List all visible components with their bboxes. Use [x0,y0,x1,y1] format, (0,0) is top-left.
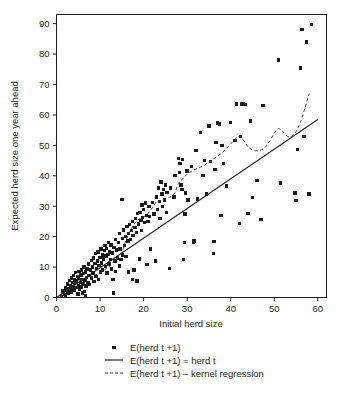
data-point [142,208,145,211]
legend-label-identity: E(herd t +1) = herd t [130,355,216,366]
data-point-group [60,23,313,299]
data-point [219,214,222,217]
data-point [96,259,99,262]
data-point [199,131,202,134]
data-point [109,243,112,246]
legend-label-points: E(herd t +1) [130,342,180,353]
data-point [162,188,165,191]
data-point [279,181,282,184]
legend-label-kernel: E(herd t +1) – kernel regression [130,368,264,379]
data-point [114,270,117,273]
data-point [229,121,232,124]
data-point [105,247,108,250]
data-point [135,279,138,282]
data-point [249,119,252,122]
data-point [213,168,216,171]
x-tick-label: 10 [95,303,106,314]
data-point [203,159,206,162]
data-point [220,144,223,147]
data-point [118,232,121,235]
data-point [158,217,161,220]
data-point [148,215,151,218]
data-point [179,183,182,186]
y-tick-label: 40 [39,170,50,181]
identity-line [57,119,318,297]
data-point [74,271,77,274]
data-point [300,28,303,31]
data-point [123,244,126,247]
data-point [149,247,152,250]
data-point [164,183,167,186]
data-point [186,198,189,201]
data-point [277,58,280,61]
data-point [225,184,228,187]
data-point [89,268,92,271]
data-point [92,280,95,283]
data-point [137,222,140,225]
data-point [307,192,310,195]
data-point [124,255,127,258]
data-point [212,252,215,255]
data-point [91,265,94,268]
data-point [154,259,157,262]
y-tick-label: 60 [39,109,50,120]
data-point [159,180,162,183]
data-point [92,256,95,259]
data-point [192,239,195,242]
data-point [207,124,210,127]
data-point [134,217,137,220]
data-point [72,274,75,277]
data-point [76,292,79,295]
data-point [184,191,187,194]
x-tick-label: 20 [138,303,149,314]
data-point [101,253,104,256]
data-point [129,238,132,241]
data-point [111,251,114,254]
data-point [165,211,168,214]
data-point [251,196,254,199]
y-tick-label: 90 [39,18,50,29]
x-tick-label: 60 [313,303,324,314]
data-point [190,165,193,168]
data-point [82,265,85,268]
legend-square-marker [112,346,116,350]
data-point [138,257,141,260]
y-tick-label: 0 [44,292,49,303]
data-point [88,283,91,286]
data-point [172,195,175,198]
data-point [222,162,225,165]
data-point [165,191,168,194]
y-tick-label: 80 [39,48,50,59]
data-point [168,267,171,270]
data-point [302,135,305,138]
data-point [310,23,313,26]
data-point [128,223,131,226]
data-point [122,228,125,231]
data-point [84,294,87,297]
data-point [144,201,147,204]
data-point [87,262,90,265]
legend: E(herd t +1) E(herd t +1) = herd t E(her… [105,342,264,379]
data-point [99,247,102,250]
data-point [146,220,149,223]
x-tick-label: 0 [54,303,59,314]
data-point [84,284,87,287]
data-point [238,222,241,225]
data-point [293,191,296,194]
data-point [182,258,185,261]
scatter-plot-svg: 0102030405060708090 0102030405060 Initia… [0,0,348,399]
data-point [85,267,88,270]
data-point [214,141,217,144]
chart-figure: 0102030405060708090 0102030405060 Initia… [0,0,348,399]
data-point [84,270,87,273]
data-point [155,195,158,198]
data-point [118,247,121,250]
data-point [160,192,163,195]
data-point [255,179,258,182]
data-point [131,278,134,281]
y-tick-label: 50 [39,140,50,151]
data-point [261,104,264,107]
x-axis-title: Initial herd size [159,318,222,329]
data-point [181,158,184,161]
x-tick-label: 30 [182,303,193,314]
